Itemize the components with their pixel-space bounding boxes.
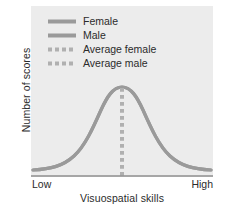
legend-item-female: Female [47,15,156,28]
curve-male [33,87,211,170]
x-tick-label-high: High [191,178,213,190]
legend-label-male: Male [83,29,106,42]
legend-swatch-dashed-icon [47,43,77,56]
legend-label-female: Female [83,15,118,28]
chart-figure: Female Male Average female [0,0,230,212]
x-axis-title: Visuospatial skills [31,192,213,204]
legend: Female Male Average female [47,15,156,70]
legend-label-average-female: Average female [83,43,156,56]
legend-label-average-male: Average male [83,57,148,70]
x-tick-label-low: Low [32,178,51,190]
y-axis-title: Number of scores [20,15,32,165]
legend-swatch-dashed-icon [47,57,77,70]
legend-item-average-female: Average female [47,43,156,56]
legend-swatch-solid-icon [47,29,77,42]
legend-item-male: Male [47,29,156,42]
legend-item-average-male: Average male [47,57,156,70]
legend-swatch-solid-icon [47,15,77,28]
curve-female [33,87,211,170]
